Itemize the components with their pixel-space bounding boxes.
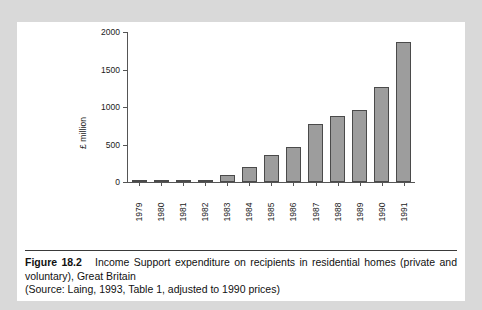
x-tick-slot: 1991 — [393, 183, 415, 239]
bar-1985[interactable] — [264, 155, 279, 182]
x-tick-slot: 1987 — [305, 183, 327, 239]
x-tick-label: 1980 — [156, 203, 166, 222]
y-tick-label: 1000 — [101, 102, 120, 112]
bar-1983[interactable] — [220, 175, 235, 183]
figure-number: Figure 18.2 — [25, 256, 82, 268]
x-tick-mark — [338, 183, 339, 186]
bar-1979[interactable] — [132, 180, 147, 182]
figure-caption: Figure 18.2 Income Support expenditure o… — [25, 256, 457, 297]
x-tick-slot: 1982 — [194, 183, 216, 239]
x-tick-slot: 1989 — [349, 183, 371, 239]
x-tick-mark — [271, 183, 272, 186]
bar-1991[interactable] — [396, 42, 411, 182]
bar-slot — [128, 32, 150, 182]
x-tick-label: 1982 — [200, 203, 210, 222]
bar-slot — [150, 32, 172, 182]
x-tick-label: 1991 — [399, 203, 409, 222]
x-axis-ticks: 1979198019811982198319841985198619871988… — [128, 183, 415, 239]
bar-slot — [172, 32, 194, 182]
x-tick-mark — [139, 183, 140, 186]
x-tick-mark — [161, 183, 162, 186]
x-tick-mark — [249, 183, 250, 186]
x-tick-mark — [227, 183, 228, 186]
bar-slot — [393, 32, 415, 182]
bar-slot — [260, 32, 282, 182]
x-tick-mark — [205, 183, 206, 186]
x-tick-slot: 1984 — [238, 183, 260, 239]
figure-panel: £ million 0500100015002000 1979198019811… — [17, 22, 465, 301]
bar-slot — [327, 32, 349, 182]
bar-1980[interactable] — [154, 180, 169, 182]
x-tick-slot: 1981 — [172, 183, 194, 239]
x-tick-label: 1981 — [178, 203, 188, 222]
bar-slot — [216, 32, 238, 182]
bar-1984[interactable] — [242, 167, 257, 182]
bar-1986[interactable] — [286, 147, 301, 182]
bar-1988[interactable] — [330, 116, 345, 182]
caption-spacer — [82, 256, 95, 268]
bar-1989[interactable] — [352, 110, 367, 182]
x-tick-label: 1989 — [355, 203, 365, 222]
x-tick-mark — [316, 183, 317, 186]
y-tick-label: 2000 — [101, 27, 120, 37]
x-tick-slot: 1990 — [371, 183, 393, 239]
caption-source: (Source: Laing, 1993, Table 1, adjusted … — [25, 283, 457, 297]
bar-slot — [282, 32, 304, 182]
x-tick-label: 1987 — [311, 203, 321, 222]
bar-1990[interactable] — [374, 87, 389, 182]
x-tick-slot: 1983 — [216, 183, 238, 239]
x-tick-mark — [293, 183, 294, 186]
x-tick-label: 1990 — [377, 203, 387, 222]
x-tick-label: 1985 — [266, 203, 276, 222]
chart-area: £ million 0500100015002000 1979198019811… — [17, 22, 465, 244]
y-tick-label: 1500 — [101, 65, 120, 75]
x-tick-mark — [404, 183, 405, 186]
plot-region: £ million 0500100015002000 1979198019811… — [87, 32, 417, 244]
x-tick-mark — [360, 183, 361, 186]
caption-title-line: Figure 18.2 Income Support expenditure o… — [25, 256, 457, 283]
x-tick-label: 1979 — [134, 203, 144, 222]
x-tick-label: 1984 — [244, 203, 254, 222]
bar-1982[interactable] — [198, 180, 213, 182]
bar-slot — [238, 32, 260, 182]
x-tick-mark — [382, 183, 383, 186]
x-tick-slot: 1980 — [150, 183, 172, 239]
bar-series — [128, 32, 415, 182]
x-tick-mark — [183, 183, 184, 186]
bar-1981[interactable] — [176, 180, 191, 182]
y-axis-ticks: 0500100015002000 — [87, 32, 127, 202]
x-tick-label: 1986 — [288, 203, 298, 222]
bar-slot — [305, 32, 327, 182]
x-tick-label: 1988 — [333, 203, 343, 222]
y-tick-label: 0 — [115, 177, 120, 187]
bar-slot — [371, 32, 393, 182]
bar-slot — [349, 32, 371, 182]
bar-slot — [194, 32, 216, 182]
x-tick-label: 1983 — [222, 203, 232, 222]
x-tick-slot: 1988 — [327, 183, 349, 239]
bar-1987[interactable] — [308, 124, 323, 183]
y-tick-label: 500 — [106, 140, 120, 150]
x-tick-slot: 1985 — [260, 183, 282, 239]
caption-divider — [25, 250, 457, 251]
x-tick-slot: 1979 — [128, 183, 150, 239]
x-tick-slot: 1986 — [282, 183, 304, 239]
